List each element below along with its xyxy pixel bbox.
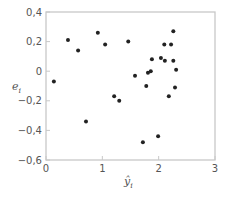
y-axis: 0,40,20−0,2−0,4−0,6 (18, 7, 50, 166)
x-tick-label: 0 (43, 163, 49, 174)
data-points (52, 29, 178, 144)
residual-scatter-chart: 0,40,20−0,2−0,4−0,6 0123 ei ŷi (0, 0, 230, 199)
data-point (112, 94, 116, 98)
data-point (66, 38, 70, 42)
y-axis-label: ei (12, 80, 22, 95)
data-point (162, 43, 166, 47)
x-axis: 0123 (43, 156, 218, 174)
x-axis-label: ŷi (123, 175, 133, 190)
data-point (52, 80, 56, 84)
data-point (171, 29, 175, 33)
data-point (144, 84, 148, 88)
y-tick-label: −0,4 (18, 125, 42, 136)
plot-frame (46, 12, 215, 160)
data-point (163, 59, 167, 63)
data-point (156, 134, 160, 138)
data-point (167, 94, 171, 98)
y-tick-label: 0,4 (26, 7, 42, 18)
data-point (103, 43, 107, 47)
x-tick-label: 1 (99, 163, 105, 174)
data-point (76, 48, 80, 52)
data-point (171, 59, 175, 63)
data-point (169, 43, 173, 47)
y-tick-label: −0,2 (18, 95, 42, 106)
data-point (174, 68, 178, 72)
data-point (159, 56, 163, 60)
x-tick-label: 3 (212, 163, 218, 174)
y-tick-label: −0,6 (18, 155, 42, 166)
data-point (96, 31, 100, 35)
data-point (150, 57, 154, 61)
data-point (117, 99, 121, 103)
data-point (173, 85, 177, 89)
data-point (141, 140, 145, 144)
data-point (126, 40, 130, 44)
y-tick-label: 0 (36, 66, 42, 77)
y-tick-label: 0,2 (26, 36, 42, 47)
x-tick-label: 2 (155, 163, 161, 174)
data-point (149, 69, 153, 73)
data-point (133, 74, 137, 78)
data-point (84, 120, 88, 124)
